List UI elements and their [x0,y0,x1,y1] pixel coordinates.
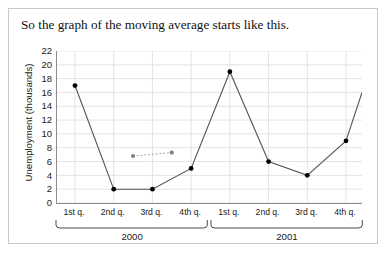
x-tick-label: 2nd q. [256,207,280,217]
y-axis-title: Unemployment (thousands) [23,48,34,198]
data-point [170,150,174,154]
x-tick-label: 4th q. [334,207,356,217]
data-point [131,154,135,158]
y-tick-label: 10 [41,129,52,139]
year-group-braces: 20002001 [56,220,361,248]
y-tick-label: 6 [47,157,52,167]
y-tick-label: 18 [41,74,52,84]
y-tick-label: 0 [47,198,52,208]
year-label: 2001 [210,231,363,242]
data-point [305,173,310,178]
y-tick-label: 20 [41,60,52,70]
series-line-0 [75,72,362,189]
data-point [189,166,194,171]
y-tick-label: 16 [41,88,52,98]
data-point [344,138,349,143]
y-tick-label: 14 [41,101,52,111]
x-tick-label: 4th q. [179,207,201,217]
data-point [73,83,78,88]
year-label: 2000 [55,231,208,242]
y-tick-label: 8 [47,143,52,153]
plot-area [56,51,362,204]
series-line-1 [133,153,172,156]
data-series-layer [57,51,362,203]
x-tick-label: 3rd q. [140,207,162,217]
data-point [227,69,232,74]
figure-panel: So the graph of the moving average start… [8,8,378,244]
y-tick-label: 2 [47,184,52,194]
data-point [111,187,116,192]
x-tick-label: 1st q. [218,207,239,217]
year-group: 2001 [210,220,363,248]
x-tick-label: 2nd q. [101,207,125,217]
y-tick-label: 12 [41,115,52,125]
x-tick-label: 3rd q. [295,207,317,217]
y-tick-label: 4 [47,171,52,181]
brace-icon [55,220,208,229]
data-point [150,187,155,192]
x-axis-tick-labels: 1st q.2nd q.3rd q.4th q.1st q.2nd q.3rd … [56,207,361,221]
figure-caption: So the graph of the moving average start… [21,17,365,33]
year-group: 2000 [55,220,208,248]
data-point [266,159,271,164]
x-tick-label: 1st q. [63,207,84,217]
brace-icon [210,220,363,229]
y-tick-label: 22 [41,46,52,56]
